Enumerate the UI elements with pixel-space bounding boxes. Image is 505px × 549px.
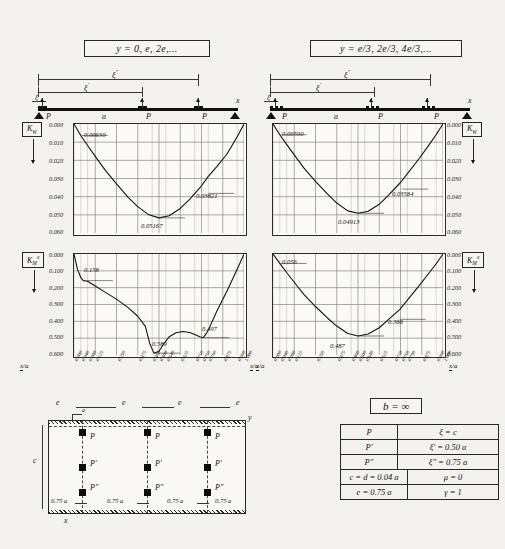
plan-view: e e e e a y P P P (30, 398, 270, 528)
dim-label-xi: ξ (35, 93, 38, 101)
annot-kw-left-1: 0.05167 (141, 222, 162, 229)
load-label-p2-r: P (378, 112, 383, 121)
plan-dim-4: 0.75 a (215, 497, 231, 504)
plan-dim-2: 0.75 a (107, 497, 123, 504)
plan-load-p2-2 (144, 489, 151, 496)
annot-kw-right-2: 0.03584 (392, 190, 413, 197)
chart-km-right-canvas (273, 254, 443, 355)
dim-label-xi2: ξ″ (112, 69, 118, 80)
annot-km-right-1: 0.487 (330, 342, 345, 349)
panel-title-right: y = e/3, 2e/3, 4e/3,... (310, 40, 462, 57)
dim-label-xi-r: ξ (267, 93, 270, 101)
beam-diagram-right: ξ″ ξ′ ξ P P P a x (262, 68, 487, 113)
table-row: P" ξ" = 0.75 a (341, 455, 499, 470)
table-val-p: ξ = c (398, 425, 499, 440)
span-label-a: a (102, 112, 106, 121)
table-val-p2: ξ" = 0.75 a (398, 455, 499, 470)
plan-load-p2-1 (79, 489, 86, 496)
xaxis-label-right-2: x/a (256, 362, 265, 371)
plan-label-p2-3: P" (215, 483, 223, 492)
load-label-p2: P (146, 112, 151, 121)
table-row: e = 0.75 a γ = 1 (341, 485, 499, 500)
plan-load-p-1 (79, 429, 86, 436)
plan-label-p2-1: P" (90, 483, 98, 492)
chart-km-right (272, 253, 446, 358)
axis-label-x-right: x (468, 96, 472, 105)
load-label-p1-r: P (282, 112, 287, 121)
plan-label-p-3: P (215, 432, 220, 441)
table-title: b = ∞ (370, 398, 422, 414)
plan-offset-a: a (82, 407, 85, 413)
key-km-left: KMx (22, 252, 44, 268)
table-sym-p2: P" (341, 455, 398, 470)
table-cd: c = d = 0.04 a (341, 470, 408, 485)
annot-kw-left-2: 0.03821 (196, 192, 217, 199)
plan-load-p1-1 (79, 464, 86, 471)
plan-e-4: e (236, 398, 240, 407)
xaxis-label-right: x/a (449, 362, 458, 371)
key-km-right: KMx (462, 252, 484, 268)
dim-label-xi2-r: ξ″ (344, 69, 350, 80)
annot-kw-left-0: 0.00630 (84, 131, 105, 138)
table-e: e = 0.75 a (341, 485, 408, 500)
table-val-p1: ξ' = 0.50 a (398, 440, 499, 455)
dim-label-xi1-r: ξ′ (316, 82, 321, 93)
load-label-p3: P (202, 112, 207, 121)
plan-label-p-2: P (155, 432, 160, 441)
plan-load-p1-3 (204, 464, 211, 471)
annot-km-right-2: 0.388 (388, 318, 403, 325)
dim-label-xi1: ξ′ (84, 82, 89, 93)
plan-label-p-1: P (90, 432, 95, 441)
annot-km-left-2: 0.497 (202, 325, 217, 332)
annot-kw-right-1: 0.04913 (338, 218, 359, 225)
plan-side-c: c (33, 456, 37, 465)
plan-load-p1-2 (144, 464, 151, 471)
panel-title-left: y = 0, e, 2e,... (84, 40, 210, 57)
plan-label-p2-2: P" (155, 483, 163, 492)
plan-dim-3: 0.75 a (167, 497, 183, 504)
plan-e-3: e (178, 398, 182, 407)
table-sym-p1: P' (341, 440, 398, 455)
annot-kw-right-0: 0.00590 (282, 130, 303, 137)
annot-km-left-0: 0.158 (84, 266, 99, 273)
table-gamma: γ = 1 (408, 485, 499, 500)
parameter-table: P ξ = c P' ξ' = 0.50 a P" ξ" = 0.75 a c … (340, 424, 499, 500)
plan-dim-1: 0.75 a (51, 497, 67, 504)
plan-load-p2-3 (204, 489, 211, 496)
technical-chart-sheet: y = 0, e, 2e,... y = e/3, 2e/3, 4e/3,...… (0, 0, 505, 549)
chart-kw-left-canvas (74, 124, 244, 233)
table-sym-p: P (341, 425, 398, 440)
plan-e-1: e (56, 398, 60, 407)
plan-label-p1-3: P' (215, 459, 222, 468)
key-kw-right: KW (462, 122, 482, 137)
plan-load-p-3 (204, 429, 211, 436)
xaxis-label-left-2: x/a (20, 362, 29, 371)
plan-label-p1-2: P' (155, 459, 162, 468)
axis-label-x-left: x (236, 96, 240, 105)
load-label-p1: P (46, 112, 51, 121)
annot-km-right-0: 0.056 (282, 258, 297, 265)
plan-load-p-2 (144, 429, 151, 436)
chart-kw-right-canvas (273, 124, 443, 233)
annot-km-left-1: 0.589 (152, 340, 167, 347)
table-mu: μ = 0 (408, 470, 499, 485)
plan-e-2: e (122, 398, 126, 407)
span-label-a-r: a (334, 112, 338, 121)
table-row: P ξ = c (341, 425, 499, 440)
table-row: P' ξ' = 0.50 a (341, 440, 499, 455)
beam-diagram-left: ξ″ ξ′ ξ P P P a x (30, 68, 245, 113)
load-label-p3-r: P (434, 112, 439, 121)
table-row: c = d = 0.04 a μ = 0 (341, 470, 499, 485)
key-kw-left: KW (22, 122, 42, 137)
plan-axis-x: x (64, 516, 68, 525)
plan-label-p1-1: P' (90, 459, 97, 468)
chart-kw-left (73, 123, 247, 236)
plan-axis-y: y (248, 413, 252, 422)
